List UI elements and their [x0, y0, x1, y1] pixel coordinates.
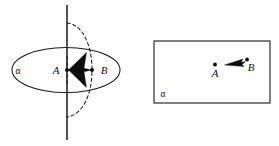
vector-b-to-a: [225, 59, 246, 67]
figure-canvas: α A B A B α: [0, 0, 279, 146]
point-b-label-left: B: [101, 64, 108, 76]
geometry-figure: α A B A B α: [0, 0, 279, 146]
point-b-label-plan: B: [248, 61, 255, 73]
perspective-panel: α A B: [12, 5, 120, 140]
plan-panel: A B α: [154, 41, 270, 103]
point-a-dot-plan: [213, 63, 217, 67]
point-a-label-left: A: [52, 64, 60, 76]
vector-a-to-b: [69, 53, 92, 88]
plane-alpha-label-left: α: [16, 66, 21, 76]
point-b-dot: [90, 68, 94, 72]
point-a-label-plan: A: [211, 67, 219, 79]
plane-alpha-label-right: α: [161, 89, 166, 99]
point-a-dot: [65, 68, 69, 72]
